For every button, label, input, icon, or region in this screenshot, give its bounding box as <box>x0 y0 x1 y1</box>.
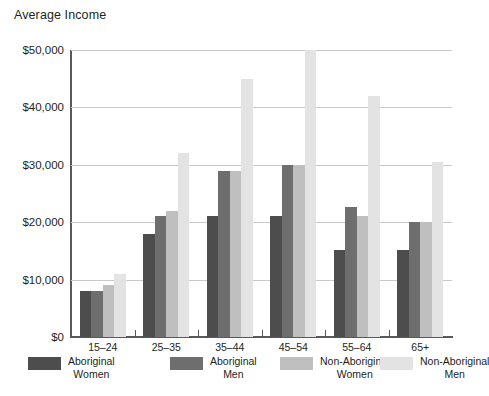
bar-group <box>325 50 389 337</box>
x-axis-category-label: 55–64 <box>325 341 389 353</box>
bar[interactable] <box>143 234 155 337</box>
bar[interactable] <box>207 216 219 337</box>
bar[interactable] <box>270 216 282 337</box>
x-axis-tick <box>262 330 263 338</box>
y-axis-tick-label: $10,000 <box>0 274 64 286</box>
plot-area <box>71 50 452 337</box>
x-axis-tick <box>135 330 136 338</box>
bar-group <box>71 50 135 337</box>
bar-group <box>389 50 453 337</box>
bar[interactable] <box>91 291 103 337</box>
bar[interactable] <box>357 216 369 337</box>
bar[interactable] <box>282 165 294 337</box>
legend-swatch <box>280 357 313 370</box>
y-axis-tick-label: $0 <box>0 331 64 343</box>
bar[interactable] <box>334 250 346 337</box>
bar[interactable] <box>420 222 432 337</box>
legend-label: Non-AboriginalMen <box>420 355 489 381</box>
x-axis-tick <box>325 330 326 338</box>
bar[interactable] <box>305 50 317 337</box>
bar[interactable] <box>397 250 409 337</box>
chart-title: Average Income <box>14 7 106 23</box>
x-axis-category-label: 45–54 <box>262 341 326 353</box>
bar-group <box>198 50 262 337</box>
bar[interactable] <box>178 153 190 337</box>
bar[interactable] <box>218 171 230 337</box>
y-axis-tick-label: $20,000 <box>0 216 64 228</box>
bar[interactable] <box>368 96 380 337</box>
bar[interactable] <box>293 165 305 337</box>
bar[interactable] <box>114 274 126 337</box>
y-axis-tick-label: $50,000 <box>0 44 64 56</box>
bar-group <box>135 50 199 337</box>
bar[interactable] <box>166 211 178 337</box>
legend-swatch <box>380 357 413 370</box>
x-axis-category-label: 65+ <box>389 341 453 353</box>
bar[interactable] <box>80 291 92 337</box>
x-axis-tick <box>389 330 390 338</box>
legend-label: AboriginalWomen <box>68 355 115 381</box>
bar[interactable] <box>155 216 167 337</box>
x-axis-category-label: 25–35 <box>135 341 199 353</box>
bar[interactable] <box>103 285 115 337</box>
bar[interactable] <box>345 207 357 337</box>
legend-swatch <box>28 357 61 370</box>
bar[interactable] <box>241 79 253 337</box>
x-axis-category-label: 15–24 <box>71 341 135 353</box>
bar-group <box>262 50 326 337</box>
legend-swatch <box>170 357 203 370</box>
bar[interactable] <box>230 171 242 337</box>
legend-label: AboriginalMen <box>210 355 257 381</box>
y-axis-tick-label: $40,000 <box>0 101 64 113</box>
x-axis-tick <box>198 330 199 338</box>
bar[interactable] <box>409 222 421 337</box>
bar[interactable] <box>432 162 444 337</box>
x-axis-category-label: 35–44 <box>198 341 262 353</box>
y-axis-tick-label: $30,000 <box>0 159 64 171</box>
chart-legend: AboriginalWomenAboriginalMenNon-Aborigin… <box>0 355 464 395</box>
